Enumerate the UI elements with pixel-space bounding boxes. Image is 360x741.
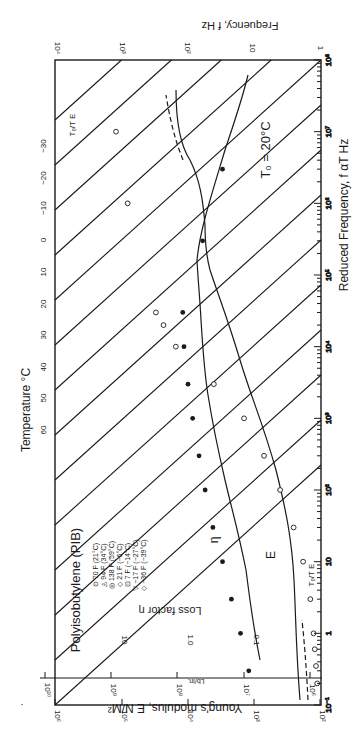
legend-item: ◇ −36 F (−39°C) — [140, 539, 148, 590]
modulus-tick-label: 10¹⁰ — [43, 683, 52, 698]
modulus-tick-label: 10⁹ — [109, 684, 118, 696]
freq-tick-label: 1 — [324, 631, 333, 636]
isotherm-line — [55, 60, 271, 255]
isotherm-line — [55, 420, 321, 660]
temperature-tick-label: 0 — [39, 237, 48, 242]
modulus-point — [211, 382, 216, 387]
temperature-axis-label: Temperature °C — [19, 368, 33, 452]
y2-axis-label: Lb/in. — [187, 678, 204, 685]
data-points — [114, 129, 320, 686]
modulus-point — [242, 416, 247, 421]
loss-point — [186, 382, 191, 387]
modulus-point — [262, 453, 267, 458]
pib-modulus-chart: 10⁻¹11010²10³10⁴10⁵10⁶10⁷10⁸ Reduced Fre… — [0, 0, 360, 741]
isotherm-line — [55, 60, 171, 165]
isotherm-line — [55, 150, 321, 390]
legend-item: ▽ −17 F (−27°C) — [132, 539, 140, 590]
modulus-tick-label: 10⁶ — [308, 684, 317, 696]
y2-tick-label: 10⁶ — [53, 710, 62, 722]
modulus-point — [173, 344, 178, 349]
legend-item: ◎ 138 F (59°C) — [108, 541, 116, 589]
chart-title: Polyisobutylene (PIB) — [68, 528, 83, 652]
temperature-tick-label: 40 — [39, 362, 48, 371]
y2-tick-label: 10³ — [252, 710, 261, 722]
modulus-point — [291, 525, 296, 530]
modulus-point — [301, 559, 306, 564]
freq-tick-label: 10² — [324, 484, 333, 496]
low-end-label: T₀/T E — [307, 564, 316, 587]
isotherm-line — [55, 60, 321, 300]
isotherm-line — [55, 330, 321, 570]
freq-tick-label: 10⁵ — [324, 269, 333, 281]
modulus-point — [153, 310, 158, 315]
legend-item: ⊡ 7 F (−14°C) — [124, 543, 132, 587]
loss-factor-tick-label: 1.0 — [186, 634, 195, 646]
loss-point — [229, 597, 234, 602]
legend-item: ⊙ 70 F (21°C) — [92, 543, 100, 587]
isotherm-line — [55, 60, 221, 210]
isotherm-line — [55, 105, 321, 345]
loss-curve-label: η — [207, 537, 221, 544]
top-freq-tick-label: 10³ — [118, 42, 127, 54]
temperature-tick-label: 50 — [39, 393, 48, 402]
loss-point — [200, 238, 205, 243]
loss-point — [182, 344, 187, 349]
modulus-curve-label: E — [264, 551, 278, 559]
temperature-tick-label: 60 — [39, 425, 48, 434]
reference-temperature: T₀ = 20°C — [258, 121, 273, 178]
temperature-tick-label: −20 — [39, 171, 48, 185]
y-axis-label: Young's modulus, E N/M² — [108, 701, 243, 715]
loss-factor-label: Loss factor η — [139, 605, 202, 617]
isotherm-line — [55, 195, 321, 435]
top-freq-tick-label: 10 — [248, 44, 257, 53]
legend-item: ◇ 21 F (−6°C) — [116, 543, 124, 586]
loss-factor-tick-label: 10 — [120, 636, 129, 645]
modulus-point — [314, 664, 319, 669]
modulus-point — [312, 647, 317, 652]
loss-point — [246, 668, 251, 673]
modulus-tick-label: 10⁸ — [175, 684, 184, 696]
loss-point — [220, 559, 225, 564]
loss-point — [180, 310, 185, 315]
high-end-label: T₀/T E — [68, 114, 77, 137]
loss-factor-tick-label: 0.1 — [252, 634, 261, 646]
modulus-point — [278, 488, 283, 493]
freq-tick-label: 10⁸ — [324, 54, 333, 66]
loss-point — [203, 488, 208, 493]
top-freq-tick-label: 10² — [183, 42, 192, 54]
loss-point — [210, 525, 215, 530]
freq-tick-label: 10 — [324, 557, 333, 566]
loss-point — [190, 416, 195, 421]
temperature-tick-label: 20 — [39, 299, 48, 308]
temperature-tick-label: −30 — [39, 139, 48, 153]
frequency-axis-label: Frequency, f Hz — [202, 20, 279, 32]
modulus-tick-label: 10⁷ — [242, 684, 251, 696]
loss-point — [197, 453, 202, 458]
freq-tick-label: 10³ — [324, 412, 333, 424]
y2-tick-label: 10² — [318, 710, 327, 722]
modulus-point — [308, 597, 313, 602]
temperature-tick-label: 30 — [39, 330, 48, 339]
modulus-point — [114, 129, 119, 134]
loss-point — [220, 167, 225, 172]
freq-tick-label: 10⁷ — [324, 126, 333, 138]
modulus-point — [161, 323, 166, 328]
isotherm-line — [55, 60, 122, 120]
modulus-dashed-low — [302, 620, 308, 700]
legend-item: ◬ 94 F (34°C) — [100, 543, 108, 586]
modulus-dashed-high — [166, 95, 183, 160]
temperature-tick-label: 10 — [39, 267, 48, 276]
freq-tick-label: 10⁶ — [324, 197, 333, 209]
top-freq-tick-label: 1 — [316, 46, 325, 51]
modulus-point — [125, 201, 130, 206]
temperature-tick-label: −10 — [39, 201, 48, 215]
loss-point — [238, 631, 243, 636]
reduced-frequency-axis: 10⁻¹11010²10³10⁴10⁵10⁶10⁷10⁸ — [314, 54, 333, 713]
freq-tick-label: 10⁴ — [324, 340, 333, 353]
isotherm-line — [55, 240, 321, 480]
top-freq-tick-label: 10⁴ — [53, 42, 62, 55]
x-axis-label: Reduced Frequency, f αT Hz — [337, 139, 351, 292]
